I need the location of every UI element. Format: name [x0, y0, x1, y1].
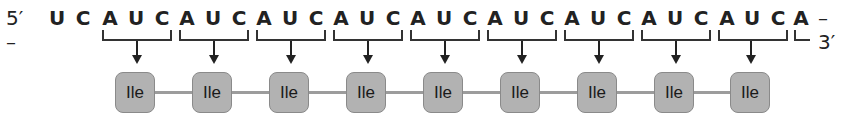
nucleotide: U — [513, 6, 529, 30]
amino-acid-ile: Ile — [269, 72, 309, 113]
arrow-down-icon — [290, 41, 292, 56]
arrow-down-icon — [444, 41, 446, 56]
codon-bracket — [487, 30, 557, 41]
codon-bracket — [718, 30, 788, 41]
nucleotide: U — [436, 6, 452, 30]
arrow-down-icon — [136, 41, 138, 56]
nucleotide: A — [102, 6, 118, 30]
codon-bracket — [641, 30, 711, 41]
nucleotide: U — [359, 6, 375, 30]
codon-bracket — [256, 30, 326, 41]
nucleotide: C — [616, 6, 632, 30]
five-prime-label: 5′ – — [6, 6, 23, 54]
nucleotide: U — [49, 6, 65, 30]
arrow-down-icon — [598, 41, 600, 56]
nucleotide: U — [205, 6, 221, 30]
arrow-down-icon — [213, 41, 215, 56]
nucleotide: C — [308, 6, 324, 30]
codon-bracket — [333, 30, 403, 41]
arrow-head-icon — [363, 55, 373, 64]
nucleotide: U — [667, 6, 683, 30]
partial-codon-bracket — [794, 30, 810, 41]
nucleotide: C — [462, 6, 478, 30]
nucleotide: A — [719, 6, 735, 30]
amino-acid-ile: Ile — [577, 72, 617, 113]
nucleotide: C — [75, 6, 91, 30]
amino-acid-ile: Ile — [192, 72, 232, 113]
nucleotide: A — [487, 6, 503, 30]
nucleotide: C — [770, 6, 786, 30]
amino-acid-ile: Ile — [346, 72, 386, 113]
arrow-down-icon — [750, 41, 752, 56]
nucleotide: U — [282, 6, 298, 30]
three-prime-label: – 3′ — [818, 6, 835, 54]
codon-bracket — [564, 30, 634, 41]
nucleotide: A — [641, 6, 657, 30]
nucleotide: A — [333, 6, 349, 30]
nucleotide: U — [744, 6, 760, 30]
arrow-down-icon — [367, 41, 369, 56]
nucleotide: A — [564, 6, 580, 30]
nucleotide: C — [693, 6, 709, 30]
nucleotide: C — [154, 6, 170, 30]
amino-acid-ile: Ile — [730, 72, 770, 113]
arrow-head-icon — [746, 55, 756, 64]
nucleotide: A — [179, 6, 195, 30]
arrow-head-icon — [209, 55, 219, 64]
nucleotide: U — [128, 6, 144, 30]
arrow-head-icon — [671, 55, 681, 64]
arrow-head-icon — [517, 55, 527, 64]
nucleotide: A — [410, 6, 426, 30]
amino-acid-ile: Ile — [500, 72, 540, 113]
amino-acid-ile: Ile — [115, 72, 155, 113]
arrow-head-icon — [286, 55, 296, 64]
arrow-down-icon — [675, 41, 677, 56]
arrow-head-icon — [594, 55, 604, 64]
codon-bracket — [410, 30, 480, 41]
nucleotide: A — [793, 6, 809, 30]
arrow-head-icon — [132, 55, 142, 64]
nucleotide: U — [590, 6, 606, 30]
codon-bracket — [179, 30, 249, 41]
nucleotide: C — [231, 6, 247, 30]
amino-acid-ile: Ile — [423, 72, 463, 113]
arrow-down-icon — [521, 41, 523, 56]
nucleotide: A — [256, 6, 272, 30]
nucleotide: C — [539, 6, 555, 30]
nucleotide: C — [385, 6, 401, 30]
codon-bracket — [102, 30, 172, 41]
amino-acid-ile: Ile — [654, 72, 694, 113]
arrow-head-icon — [440, 55, 450, 64]
